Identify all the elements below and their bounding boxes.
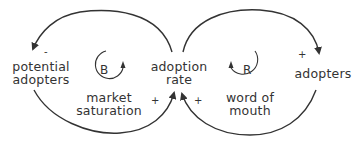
link-adoption-rate-to-potential-adopters <box>33 11 172 52</box>
loop-letter-r: R <box>243 64 251 76</box>
loop-label-market-saturation: market saturation <box>76 91 142 117</box>
loop-label-word-of-mouth-line2: mouth <box>220 104 280 117</box>
polarity-sign-potential-adopters: - <box>44 47 48 57</box>
loop-letter-b: B <box>100 64 108 76</box>
node-adoption-rate: adoption rate <box>139 60 219 86</box>
node-potential-adopters: potential adopters <box>0 60 82 86</box>
node-adoption-rate-line2: rate <box>139 73 219 86</box>
node-adopters: adopters <box>288 67 358 80</box>
link-adoption-rate-to-adopters <box>183 10 319 53</box>
polarity-sign-adoption-rate-left: + <box>151 96 159 106</box>
polarity-sign-adopters: + <box>298 50 306 60</box>
loop-label-market-saturation-line2: saturation <box>76 104 142 117</box>
polarity-sign-adoption-rate-right: + <box>194 96 202 106</box>
loop-label-word-of-mouth: word of mouth <box>220 91 280 117</box>
node-potential-adopters-line2: adopters <box>0 73 82 86</box>
